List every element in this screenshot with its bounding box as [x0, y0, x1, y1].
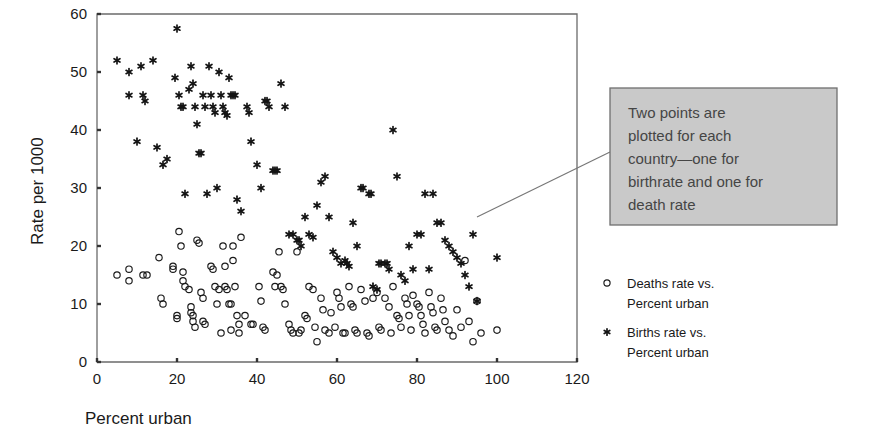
x-axis-tick-labels: 020406080100120 [93, 370, 590, 387]
data-point-death-rate [328, 310, 334, 316]
data-point-death-rate [294, 249, 300, 255]
axis-tick-marks [97, 14, 577, 362]
data-point-birth-rate [282, 103, 288, 110]
y-tick-label: 40 [70, 121, 87, 138]
data-point-death-rate [370, 295, 376, 301]
data-point-death-rate [180, 269, 186, 275]
data-point-death-rate [454, 307, 460, 313]
data-point-death-rate [386, 304, 392, 310]
data-point-death-rate [438, 295, 444, 301]
data-point-birth-rate [150, 57, 156, 64]
data-point-birth-rate [314, 202, 320, 209]
data-point-birth-rate [402, 277, 408, 284]
data-point-death-rate [494, 327, 500, 333]
chart-legend: Deaths rate vs.Percent urbanBirths rate … [604, 276, 715, 360]
data-point-birth-rate [406, 243, 412, 250]
annotation-leader-line [477, 152, 610, 217]
series-births-rate [114, 25, 500, 304]
data-point-birth-rate [330, 248, 336, 255]
data-point-birth-rate [438, 219, 444, 226]
data-point-death-rate [176, 228, 182, 234]
data-point-death-rate [404, 301, 410, 307]
y-tick-label: 50 [70, 63, 87, 80]
x-tick-label: 60 [329, 370, 346, 387]
data-point-death-rate [406, 312, 412, 318]
y-tick-label: 0 [79, 353, 87, 370]
x-tick-label: 120 [564, 370, 589, 387]
data-point-death-rate [258, 298, 264, 304]
data-point-birth-rate [434, 219, 440, 226]
data-point-birth-rate [494, 254, 500, 261]
data-point-death-rate [446, 327, 452, 333]
data-point-death-rate [126, 278, 132, 284]
data-point-birth-rate [258, 185, 264, 192]
data-point-death-rate [156, 254, 162, 260]
data-point-birth-rate [216, 69, 222, 76]
data-point-birth-rate [462, 272, 468, 279]
data-point-death-rate [220, 243, 226, 249]
data-point-birth-rate [422, 190, 428, 197]
data-point-death-rate [426, 289, 432, 295]
data-point-death-rate [214, 301, 220, 307]
data-point-birth-rate [218, 92, 224, 99]
data-point-birth-rate [354, 243, 360, 250]
data-point-death-rate [346, 283, 352, 289]
data-point-birth-rate [202, 103, 208, 110]
data-point-birth-rate [234, 196, 240, 203]
data-point-birth-rate [410, 266, 416, 273]
x-tick-label: 20 [169, 370, 186, 387]
data-point-birth-rate [194, 121, 200, 128]
legend-label-line1: Births rate vs. [627, 325, 706, 340]
data-point-birth-rate [290, 231, 296, 238]
data-point-birth-rate [254, 161, 260, 168]
data-point-birth-rate [114, 57, 120, 64]
data-point-death-rate [218, 330, 224, 336]
data-point-birth-rate [326, 214, 332, 221]
scatter-plot-figure: 020406080100120 0102030405060 Percent ur… [0, 0, 877, 443]
annotation-line: country—one for [628, 150, 739, 167]
data-point-birth-rate [430, 190, 436, 197]
data-point-birth-rate [188, 63, 194, 70]
y-axis-tick-labels: 0102030405060 [70, 5, 87, 370]
data-point-death-rate [440, 307, 446, 313]
data-point-death-rate [332, 324, 338, 330]
legend-label-line2: Percent urban [627, 345, 709, 360]
data-point-death-rate [256, 283, 262, 289]
data-point-death-rate [458, 324, 464, 330]
data-point-death-rate [276, 249, 282, 255]
legend-label-line2: Percent urban [627, 296, 709, 311]
data-point-death-rate [234, 312, 240, 318]
data-point-birth-rate [126, 92, 132, 99]
annotation-line: Two points are [628, 104, 726, 121]
y-tick-label: 30 [70, 179, 87, 196]
data-point-birth-rate [390, 127, 396, 134]
legend-marker-asterisk [604, 329, 610, 335]
data-point-birth-rate [466, 283, 472, 290]
data-point-birth-rate [164, 156, 170, 163]
data-point-death-rate [236, 321, 242, 327]
data-point-death-rate [358, 286, 364, 292]
data-point-birth-rate [206, 63, 212, 70]
x-axis-title: Percent urban [85, 409, 192, 428]
data-point-birth-rate [446, 243, 452, 250]
data-point-birth-rate [414, 231, 420, 238]
data-point-birth-rate [154, 144, 160, 151]
data-point-birth-rate [182, 190, 188, 197]
x-tick-label: 100 [484, 370, 509, 387]
y-tick-label: 60 [70, 5, 87, 22]
data-point-birth-rate [238, 208, 244, 215]
x-tick-label: 40 [249, 370, 266, 387]
y-axis-title: Rate per 1000 [28, 137, 47, 245]
data-point-death-rate [318, 295, 324, 301]
data-point-death-rate [144, 272, 150, 278]
data-point-death-rate [390, 283, 396, 289]
data-point-birth-rate [126, 69, 132, 76]
series-deaths-rate [114, 228, 500, 345]
data-point-death-rate [382, 295, 388, 301]
data-point-birth-rate [322, 173, 328, 180]
data-point-birth-rate [318, 179, 324, 186]
data-point-death-rate [442, 318, 448, 324]
data-point-death-rate [478, 330, 484, 336]
data-point-birth-rate [134, 138, 140, 145]
annotation-line: birthrate and one for [628, 173, 763, 190]
